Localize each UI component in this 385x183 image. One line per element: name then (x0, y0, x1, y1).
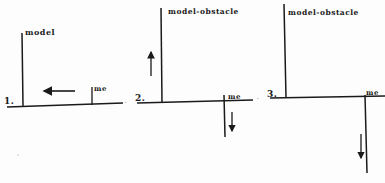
panel-1-baseline (7, 103, 123, 107)
panel-1-model-label: model (25, 27, 55, 37)
svg-text:.: . (257, 95, 259, 100)
panel-1-me-label: me (94, 84, 107, 93)
panel-1-number: 1. (4, 96, 14, 106)
panel-2-model-obstacle-label: model-obstacle (168, 7, 239, 16)
diagram-canvas: 1. model me . 2. model-obstacle me . 3. (0, 0, 385, 183)
panel-3-model-obstacle-line (284, 4, 286, 98)
panel-3-me-line (365, 95, 367, 173)
panel-2-me-line (224, 95, 225, 137)
panel-1-model-line (22, 33, 23, 106)
panel-2-model-obstacle-line (161, 8, 162, 103)
panel-2-me-label: me (228, 92, 241, 101)
panel-2-number: 2. (135, 93, 145, 103)
svg-text:.: . (125, 99, 127, 104)
diagram-svg: 1. model me . 2. model-obstacle me . 3. (0, 0, 385, 183)
panel-2: . 2. model-obstacle me (125, 7, 253, 137)
panel-3: . 3. model-obstacle me (257, 4, 385, 173)
panel-3-me-label: me (366, 88, 379, 97)
panel-1: 1. model me (4, 27, 123, 107)
panel-3-model-obstacle-label: model-obstacle (288, 8, 359, 17)
